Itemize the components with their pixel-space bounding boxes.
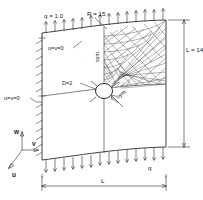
top-load-label: q = 1.0 bbox=[44, 12, 64, 19]
left-bc-leader-line bbox=[30, 98, 42, 102]
top-boundary-condition-label: u=v=0 bbox=[48, 45, 64, 51]
left-edge-support-hatching bbox=[36, 40, 42, 156]
u-axis-label: u bbox=[12, 171, 16, 178]
central-cutout bbox=[96, 84, 113, 99]
shell-panel-diagram: R = 15 q = 1.0 u=v=0 u=v=0 D=2 sym. sym.… bbox=[0, 0, 203, 200]
hole-diameter-label: D=2 bbox=[62, 80, 72, 86]
radius-label: R = 15 bbox=[87, 10, 106, 17]
diagonal-symmetry-label: sym. bbox=[115, 88, 128, 100]
v-axis-label: v bbox=[32, 140, 36, 147]
vertical-dimension: L = 14 bbox=[168, 20, 203, 148]
radius-leader-line bbox=[95, 18, 107, 29]
diagram-canvas: R = 15 q = 1.0 u=v=0 u=v=0 D=2 sym. sym.… bbox=[0, 0, 203, 200]
vertical-length-label: L = 14 bbox=[186, 46, 203, 53]
w-axis-label: w bbox=[13, 128, 20, 135]
left-boundary-condition-label: u=v=0 bbox=[4, 95, 20, 101]
finite-element-mesh bbox=[104, 20, 166, 88]
vertical-symmetry-label: sym. bbox=[94, 50, 100, 62]
hole-diameter-leader-line bbox=[80, 83, 96, 89]
bottom-load-arrows bbox=[44, 147, 164, 173]
bottom-load-label: q bbox=[148, 164, 152, 171]
u-axis-line bbox=[9, 150, 22, 168]
top-bc-leader-line bbox=[73, 41, 82, 48]
horizontal-dimension: L bbox=[42, 176, 167, 191]
coordinate-axes-triad: w v u bbox=[8, 128, 38, 178]
horizontal-length-label: L bbox=[101, 177, 105, 184]
